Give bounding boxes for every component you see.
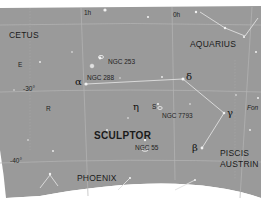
constellation-label: AQUARIUS xyxy=(190,40,236,49)
star-designation: E xyxy=(18,62,22,69)
greek-star-label: α xyxy=(75,77,82,87)
greek-star-label: β xyxy=(192,143,198,153)
chart-background xyxy=(0,6,261,198)
greek-star-label: δ xyxy=(186,72,192,82)
constellation-label: SCULPTOR xyxy=(94,131,151,141)
greek-star-label: η xyxy=(133,102,139,112)
ngc-label: NGC 288 xyxy=(87,75,114,82)
ngc-label: NGC 7793 xyxy=(162,113,193,120)
star-chart xyxy=(0,0,261,202)
ra-label: 1h xyxy=(84,10,91,17)
constellation-label: AUSTRIN xyxy=(220,160,259,169)
constellation-label: PISCIS xyxy=(220,149,249,158)
dec-label: -40° xyxy=(10,158,22,165)
star-designation: R xyxy=(46,106,51,113)
star-designation: S xyxy=(152,104,156,111)
dec-label: -30° xyxy=(23,86,35,93)
ngc-label: NGC 253 xyxy=(108,59,135,66)
constellation-label: PHOENIX xyxy=(77,174,117,183)
constellation-label: CETUS xyxy=(9,31,39,40)
ngc-label: NGC 55 xyxy=(135,145,158,152)
greek-star-label: γ xyxy=(227,108,233,118)
ra-label: 0h xyxy=(173,12,180,19)
partial-constellation-label: Fon xyxy=(247,105,258,112)
